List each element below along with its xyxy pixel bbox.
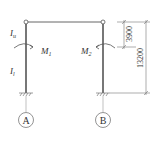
moment-arrowhead-m1-icon	[30, 45, 33, 49]
portal-frame-diagram: A B M1 M2 Iu Il 3900 13200	[0, 0, 157, 142]
moment-label-m1: M1	[40, 46, 52, 57]
axis-label-b: B	[100, 115, 107, 126]
fixed-support-a-icon	[19, 93, 33, 96]
dimension-upper: 3900	[125, 26, 134, 42]
moment-label-m2: M2	[80, 46, 92, 57]
pin-joint-a	[24, 20, 28, 24]
axis-label-a: A	[22, 115, 30, 126]
pin-joint-b	[101, 20, 105, 24]
moment-arrow-m1-icon	[14, 44, 33, 48]
upper-inertia-label: Iu	[9, 28, 16, 39]
moment-arrowhead-m2-icon	[96, 45, 99, 49]
moment-arrow-m2-icon	[96, 44, 115, 48]
lower-inertia-label: Il	[9, 66, 15, 77]
dimension-total: 13200	[136, 48, 145, 68]
fixed-support-b-icon	[96, 93, 110, 96]
